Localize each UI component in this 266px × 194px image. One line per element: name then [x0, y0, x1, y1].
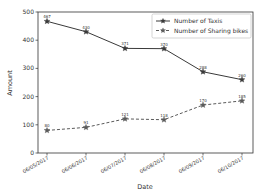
y-tick-label: 300 — [23, 64, 35, 71]
x-tick-label: 06/08/2017 — [139, 155, 167, 175]
y-tick-label: 400 — [23, 36, 35, 43]
y-tick-label: 0 — [30, 149, 34, 156]
series-sharing-bikes: 8091121118170185 — [44, 94, 246, 133]
legend-label: Number of Sharing bikes — [174, 27, 248, 35]
data-label: 91 — [83, 120, 89, 125]
series-line — [47, 101, 242, 131]
data-label: 185 — [238, 94, 246, 99]
y-tick-label: 100 — [23, 121, 35, 128]
data-label: 430 — [82, 25, 90, 30]
data-label: 370 — [160, 42, 168, 47]
data-label: 80 — [44, 123, 50, 128]
x-tick-label: 06/09/2017 — [178, 155, 206, 175]
data-label: 170 — [199, 98, 207, 103]
x-axis-label: Date — [137, 183, 153, 191]
y-tick-label: 500 — [23, 8, 35, 15]
data-label: 371 — [121, 41, 129, 46]
x-tick-label: 06/06/2017 — [61, 155, 89, 175]
data-label: 288 — [199, 65, 207, 70]
y-tick-label: 200 — [23, 93, 35, 100]
y-axis-label: Amount — [6, 70, 14, 96]
legend-label: Number of Taxis — [174, 17, 222, 24]
data-label: 260 — [238, 73, 246, 78]
legend: Number of TaxisNumber of Sharing bikes — [152, 14, 251, 38]
x-tick-label: 06/10/2017 — [217, 155, 245, 175]
x-tick-label: 06/05/2017 — [22, 155, 50, 175]
data-label: 121 — [121, 112, 129, 117]
data-label: 118 — [160, 113, 168, 118]
x-tick-label: 06/07/2017 — [100, 155, 128, 175]
data-label: 467 — [43, 14, 51, 19]
line-chart: 010020030040050006/05/201706/06/201706/0… — [0, 0, 266, 194]
chart-canvas: 010020030040050006/05/201706/06/201706/0… — [0, 0, 266, 194]
